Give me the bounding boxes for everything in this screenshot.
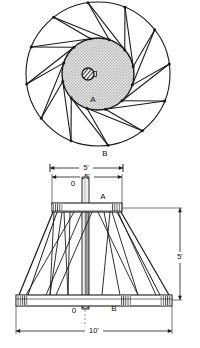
inner-disc-circle: [62, 38, 134, 110]
outer-node: [86, 1, 89, 4]
outer-node: [70, 139, 73, 142]
inner-node: [121, 99, 124, 102]
inner-node: [72, 46, 75, 49]
bottom-plate: [16, 295, 172, 306]
outer-node: [123, 6, 126, 9]
label-bottom-post: 0: [72, 306, 77, 315]
inner-node: [70, 97, 73, 100]
outer-node: [153, 28, 156, 31]
outer-node: [52, 16, 55, 19]
drawing-sheet: A B 5' 5': [0, 0, 200, 348]
inner-node: [131, 84, 134, 87]
engineering-drawing-canvas: A B 5' 5': [0, 0, 200, 348]
inner-node: [104, 108, 107, 111]
bottom-plate-group: [16, 295, 172, 306]
bottom-plate-hatch-left: [17, 296, 28, 306]
label-outer-ring: B: [102, 149, 107, 158]
base-width-value: 10': [89, 326, 99, 335]
hub-icon: [82, 68, 94, 80]
inner-node: [123, 48, 126, 51]
label-inner-disc: A: [90, 95, 96, 104]
outer-node: [107, 144, 110, 147]
top-plate-group: [52, 203, 122, 212]
outer-node: [30, 46, 33, 49]
inner-node: [62, 61, 65, 64]
inner-node: [89, 37, 92, 40]
outer-node: [163, 99, 166, 102]
outer-node: [141, 129, 144, 132]
outer-node: [40, 117, 43, 120]
overall-height-value: 5': [177, 252, 183, 261]
label-bottom-plate: B: [111, 304, 116, 313]
bottom-plate-hatch-right: [160, 296, 171, 306]
label-top-plate: A: [100, 192, 106, 201]
column-bottom-cap: [82, 307, 89, 309]
outer-node: [168, 62, 171, 65]
inner-node: [132, 65, 135, 68]
plan-diameter-value: 5': [83, 163, 89, 172]
inner-node: [108, 38, 111, 41]
label-top-post: 0: [71, 179, 76, 188]
inner-node: [85, 107, 88, 110]
inner-node: [61, 80, 64, 83]
column-top-cap: [82, 178, 89, 180]
bottom-plate-hatch-inner-right: [120, 296, 131, 306]
top-plate-hatch-left: [53, 204, 63, 212]
outer-node: [25, 83, 28, 86]
top-plate-hatch-right: [111, 204, 121, 212]
